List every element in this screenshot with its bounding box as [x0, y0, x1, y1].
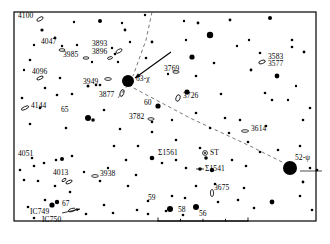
star-marker [167, 73, 169, 75]
star-marker [171, 119, 173, 121]
star-marker [245, 165, 248, 168]
star-marker [236, 45, 238, 47]
star-marker [151, 41, 154, 44]
object-label-59: 59 [148, 194, 156, 202]
star-marker [197, 22, 200, 25]
object-label-4144: 4144 [31, 102, 46, 110]
star-marker [185, 167, 188, 170]
object-label-4013: 4013 [53, 169, 68, 177]
star-marker [60, 157, 64, 161]
star-marker [65, 127, 68, 130]
star-marker [303, 51, 306, 54]
star-marker [113, 145, 116, 148]
star-marker [207, 32, 213, 38]
object-label-56: 56 [199, 210, 207, 218]
object-label-3675: 3675 [214, 184, 229, 192]
star-marker [291, 39, 294, 42]
star-marker [247, 141, 250, 144]
object-label-67: 67 [62, 200, 70, 208]
star-marker [114, 53, 117, 56]
star-marker [91, 61, 93, 63]
object-label-3949: 3949 [83, 78, 98, 86]
object-label-1561: Σ1561 [158, 149, 178, 157]
star-marker [309, 167, 312, 170]
object-label-4051: 4051 [18, 150, 33, 158]
star-marker [295, 85, 297, 87]
star-marker [111, 47, 113, 49]
object-label-52: 52-ψ [295, 154, 310, 162]
star-marker [184, 197, 187, 200]
star-marker [56, 94, 59, 97]
star-marker [195, 75, 198, 78]
star-marker [213, 62, 216, 65]
star-marker [99, 84, 102, 87]
star-marker [103, 109, 106, 112]
star-marker [228, 132, 231, 135]
star-marker [69, 191, 72, 194]
star-marker [55, 159, 58, 162]
star-marker [220, 93, 223, 96]
star-marker [165, 210, 168, 213]
star-marker [73, 21, 75, 23]
star-marker [145, 57, 148, 60]
star-marker [151, 131, 154, 134]
star-marker [137, 145, 140, 148]
star-marker [33, 217, 36, 220]
object-label-3769: 3769 [164, 65, 179, 73]
variable-star-center-dot [204, 152, 206, 154]
star-marker [37, 180, 40, 183]
star-marker [136, 209, 139, 212]
star-marker [239, 119, 242, 122]
star-marker [250, 69, 253, 72]
star-marker [167, 206, 173, 212]
star-marker [103, 204, 106, 207]
star-marker [253, 207, 256, 210]
star-marker [271, 99, 274, 102]
star-marker [119, 128, 122, 131]
object-label-4100: 4100 [18, 12, 33, 20]
star-marker [19, 169, 22, 172]
star-marker [59, 77, 62, 80]
star-marker [259, 52, 262, 55]
star-marker [171, 195, 174, 198]
star-marker [299, 195, 302, 198]
star-marker [302, 181, 305, 184]
star-marker [302, 119, 305, 122]
star-marker [40, 28, 43, 31]
star-marker [243, 187, 246, 190]
object-label-3938: 3938 [100, 170, 115, 178]
star-marker [27, 206, 30, 209]
star-marker [21, 97, 24, 100]
object-label-3577: 3577 [268, 60, 283, 68]
star-marker [161, 162, 164, 165]
star-marker [185, 39, 187, 41]
star-marker [29, 59, 32, 62]
star-marker [275, 74, 280, 79]
star-marker [189, 54, 194, 59]
star-marker [43, 162, 46, 165]
object-label-4096: 4096 [32, 68, 47, 76]
star-marker [147, 213, 150, 216]
star-marker [229, 19, 232, 22]
object-label-65: 65 [61, 106, 69, 114]
star-marker [121, 22, 123, 24]
object-label-3726: 3726 [183, 92, 198, 100]
star-marker [264, 92, 267, 95]
star-marker [175, 159, 178, 162]
star-marker [85, 213, 88, 216]
star-marker [248, 39, 250, 41]
star-marker [309, 107, 312, 110]
object-label-st: ST [210, 149, 219, 157]
object-label-3896: 3896 [92, 48, 107, 56]
star-marker [287, 99, 289, 101]
star-marker [29, 123, 32, 126]
object-label-58: 58 [178, 206, 186, 214]
star-marker [231, 159, 234, 162]
star-marker [54, 185, 57, 188]
star-marker [217, 201, 220, 204]
star-marker [117, 61, 119, 63]
star-marker [283, 161, 297, 175]
object-label-4047: 4047 [41, 38, 56, 46]
star-marker [99, 180, 102, 183]
star-marker [209, 127, 211, 129]
